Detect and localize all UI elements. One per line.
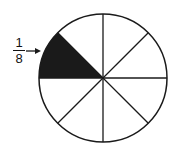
arrow-icon <box>26 48 41 54</box>
segment-lines <box>39 14 167 142</box>
fraction-circle-diagram <box>0 0 176 153</box>
shaded-segment <box>39 33 103 78</box>
